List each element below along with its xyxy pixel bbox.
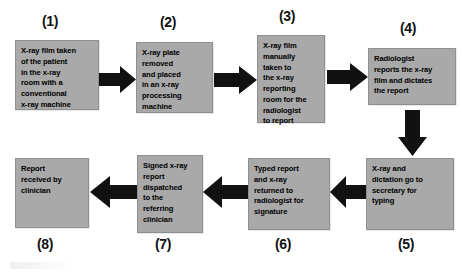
- arrow-right-icon-2-to-3: [214, 66, 257, 94]
- arrow-right-icon-1-to-2: [99, 66, 136, 93]
- step-number-5: (5): [398, 236, 414, 252]
- step-number-4: (4): [400, 20, 416, 36]
- scan-artifact: [10, 262, 70, 269]
- process-box-7: Signed x-ray report dispatched to the re…: [137, 155, 203, 233]
- arrow-left-icon-7-to-8: [90, 176, 137, 208]
- step-number-2: (2): [160, 14, 176, 30]
- step-number-8: (8): [37, 236, 53, 252]
- arrow-right-icon-3-to-4: [327, 63, 368, 91]
- step-number-6: (6): [275, 236, 291, 252]
- process-box-4: Radiologist reports the x-ray film and d…: [368, 48, 456, 105]
- flowchart-diagram: (1) X-ray film taken of the patient in t…: [0, 0, 462, 272]
- process-box-6: Typed report and x-ray returned to radio…: [248, 158, 330, 230]
- arrow-left-icon-5-to-6: [330, 176, 366, 208]
- process-box-5: X-ray and dictation go to secretary for …: [366, 158, 454, 230]
- process-box-8: Report received by clinician: [15, 158, 89, 228]
- arrow-down-icon-4-to-5: [398, 110, 427, 156]
- step-number-3: (3): [279, 8, 295, 24]
- process-box-1: X-ray film taken of the patient in the x…: [15, 40, 99, 110]
- step-number-1: (1): [42, 13, 58, 29]
- arrow-left-icon-6-to-7: [203, 176, 248, 208]
- step-number-7: (7): [155, 236, 171, 252]
- process-box-2: X-ray plate removed and placed in an x-r…: [136, 42, 213, 113]
- process-box-3: X-ray film manually taken to the x-ray r…: [257, 35, 325, 123]
